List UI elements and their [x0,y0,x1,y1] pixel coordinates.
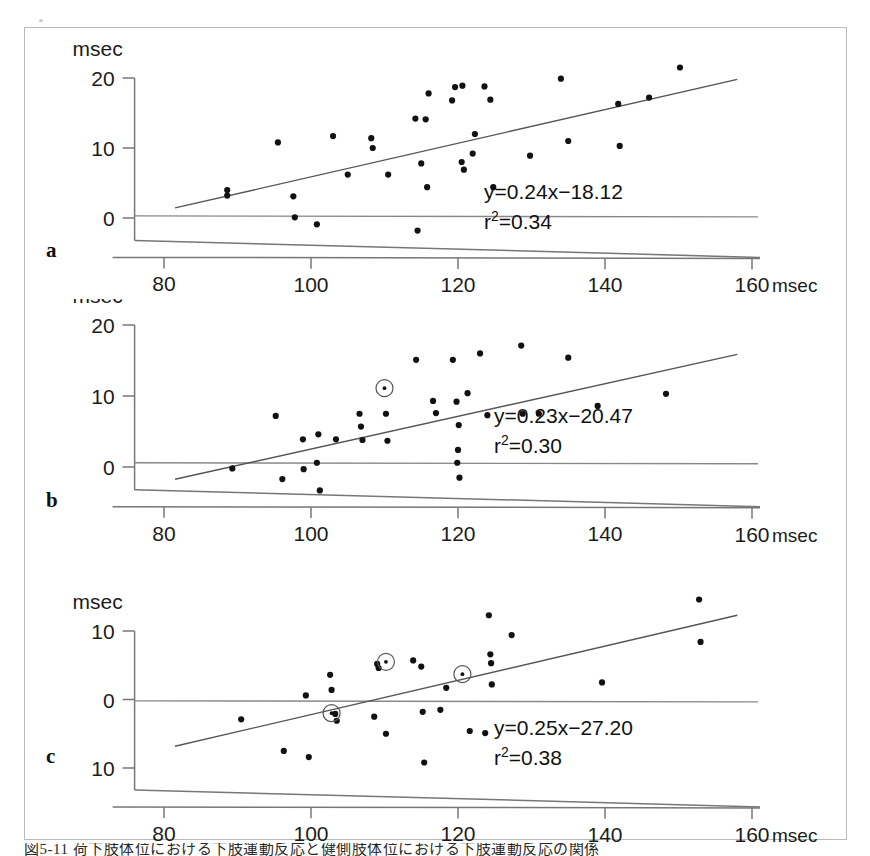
y-tick-label-b-0: 0 [103,456,115,479]
y-axis-title-c: msec [73,590,123,613]
data-point [437,707,443,713]
data-point [314,221,320,227]
data-point [314,460,320,466]
x-axis-unit-c: msec [772,825,817,843]
x-tick-label-b-2: 120 [440,522,475,545]
x-tick-label-a-2: 120 [440,273,475,296]
highlighted-data-point [461,672,465,676]
data-point [384,438,390,444]
regression-equation-b: y=0.23x−20.47 [494,404,633,427]
data-point [273,413,279,419]
data-point [455,447,461,453]
x-tick-label-b-0: 80 [152,522,175,545]
x-tick-label-b-1: 100 [293,522,328,545]
data-point [454,460,460,466]
y-tick-label-b-1: 10 [91,385,114,408]
data-point [443,685,449,691]
data-point [345,172,351,178]
data-point [489,681,495,687]
data-point [599,679,605,685]
data-point [565,138,571,144]
data-point [484,412,490,418]
y-tick-label-a-2: 20 [91,67,114,90]
data-point [420,709,426,715]
data-point [306,754,312,760]
data-point [426,90,432,96]
data-point [333,436,339,442]
data-point [383,411,389,417]
y-axis-title-a: msec [73,37,123,60]
highlighted-data-point [330,711,334,715]
data-point [414,228,420,234]
y-axis-title-b: msec [73,299,123,307]
figure-root: 01020msec80100120140160msecy=0.24x−18.12… [0,0,870,856]
data-point [412,116,418,122]
highlighted-data-point [384,660,388,664]
data-point [317,487,323,493]
data-point [292,214,298,220]
r-squared-annotation-b: r2=0.30 [494,432,562,457]
data-point [229,465,235,471]
data-point [424,184,430,190]
zero-reference-line-c [135,701,758,702]
data-point [359,437,365,443]
data-point [470,151,476,157]
data-point [385,172,391,178]
highlighted-data-point [383,386,387,390]
panel-letter-c: c [46,744,55,768]
x-tick-label-b-4: 160 [734,523,769,546]
x-axis-line-c [113,807,760,808]
x-tick-label-c-4: 160 [734,823,769,843]
data-point [449,97,455,103]
data-point [300,436,306,442]
data-point [518,342,524,348]
data-point [509,632,515,638]
data-point [464,390,470,396]
x-axis-line-b [113,507,760,508]
regression-equation-a: y=0.24x−18.12 [484,180,623,203]
x-tick-label-c-2: 120 [440,822,475,843]
x-tick-label-b-3: 140 [587,522,622,545]
data-point [328,687,334,693]
y-tick-label-a-0: 0 [103,207,115,230]
data-point [487,651,493,657]
data-point [488,660,494,666]
data-point [275,139,281,145]
figure-caption-row: 図5-11 荷下肢体位における下肢運動反応と健側肢体位における下肢運動反応の関係 [24,843,847,856]
data-point [224,193,230,199]
data-point [558,76,564,82]
regression-equation-c: y=0.25x−27.20 [494,716,633,739]
data-point [459,83,465,89]
data-point [663,391,669,397]
panel-letter-b: b [46,488,58,512]
x-tick-label-a-3: 140 [587,273,622,296]
scatter-plot-b: 01020msec80100120140160msecy=0.23x−20.47… [24,299,847,571]
x-axis-unit-a: msec [772,275,817,296]
y-tick-label-c-0: 10 [91,757,114,780]
x-tick-label-a-4: 160 [734,273,769,296]
data-point [433,410,439,416]
panel-a: 01020msec80100120140160msecy=0.24x−18.12… [24,27,847,299]
data-point [617,143,623,149]
data-point [456,475,462,481]
data-point [330,133,336,139]
data-point [301,466,307,472]
data-point [696,596,702,602]
plot-base-line-a [135,240,760,257]
data-point [356,411,362,417]
x-tick-label-a-0: 80 [152,272,175,295]
data-point [418,160,424,166]
data-point [487,97,493,103]
data-point [481,83,487,89]
data-point [527,153,533,159]
data-point [413,357,419,363]
data-point [452,84,458,90]
data-point [453,399,459,405]
regression-line-a [175,79,737,208]
data-point [370,145,376,151]
data-point [327,672,333,678]
r-squared-annotation-a: r2=0.34 [484,208,552,233]
data-point [615,101,621,107]
data-point [646,95,652,101]
data-point [368,135,374,141]
